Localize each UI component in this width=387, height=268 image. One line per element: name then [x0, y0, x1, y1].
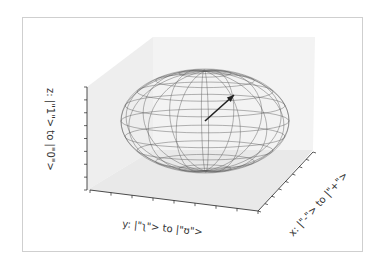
z-axis-label: z: |"1"> to |"0">: [44, 88, 56, 171]
x-tick: [313, 152, 316, 153]
x-tick: [299, 167, 302, 168]
x-axis-label: x: |"-"> to |"+">: [286, 169, 350, 239]
x-tick: [279, 189, 282, 190]
back-pane: [153, 37, 315, 150]
x-tick: [292, 174, 295, 175]
x-tick: [272, 196, 275, 197]
bloch-sphere-plot: y: |"ʅ"> to |"ʊ"> x: |"-"> to |"+"> z: |…: [0, 0, 387, 268]
y-axis-label: y: |"ʅ"> to |"ʊ">: [122, 218, 204, 238]
x-tick: [258, 211, 261, 212]
x-tick: [265, 204, 268, 205]
x-tick: [286, 182, 289, 183]
x-tick: [306, 159, 309, 160]
